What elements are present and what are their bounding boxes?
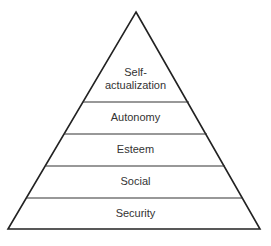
level-self-actualization: Self- actualization: [0, 66, 271, 92]
level-esteem: Esteem: [0, 143, 271, 156]
level-social: Social: [0, 175, 271, 188]
level-self-actualization-line1: Self-: [0, 66, 271, 79]
level-self-actualization-line2: actualization: [0, 79, 271, 92]
level-autonomy: Autonomy: [0, 111, 271, 124]
level-security: Security: [0, 207, 271, 220]
